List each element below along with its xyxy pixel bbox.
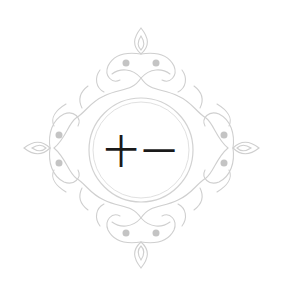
center-numeral: 十一 (0, 0, 283, 296)
